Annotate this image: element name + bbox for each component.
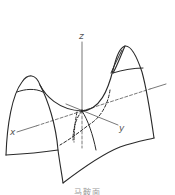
x-axis [17, 126, 36, 132]
origin-point [81, 110, 84, 113]
hidden-section-mid [74, 112, 77, 142]
saddle-left-peak [6, 76, 82, 155]
z-axis-label: z [78, 31, 84, 41]
saddle-back-edge [113, 46, 125, 73]
x-axis-back-end [150, 84, 166, 89]
saddle-bottom-edge [63, 138, 154, 183]
left-peak-contour [17, 89, 43, 92]
figure-caption: 马鞍面 [0, 186, 175, 195]
y-axis-label: y [118, 123, 125, 133]
front-section-curve [82, 111, 96, 150]
saddle-surface-diagram: z x y [0, 0, 175, 195]
saddle-right-peak [82, 46, 154, 138]
right-peak-contour [113, 68, 143, 73]
y-axis [66, 104, 118, 125]
x-axis-label: x [9, 127, 16, 137]
saddle-left-bottom-edge [6, 150, 58, 155]
right-peak-inner-line [111, 50, 122, 73]
